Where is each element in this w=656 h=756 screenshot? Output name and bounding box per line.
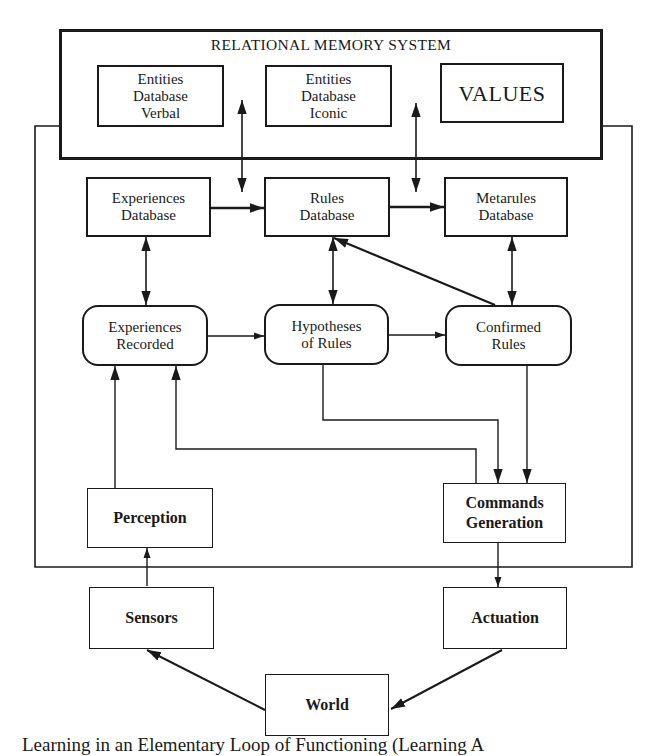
perception: Perception [87, 488, 213, 548]
entities-database-iconic: Entities Database Iconic [265, 65, 392, 127]
edge-hyp-commands [323, 364, 498, 483]
entities-database-verbal: Entities Database Verbal [97, 65, 224, 127]
edge-conf-rulesdb [334, 238, 495, 305]
edge-actuation-world [391, 650, 502, 709]
actuation-label: Actuation [471, 608, 539, 628]
metarules-database-label: Metarules Database [476, 190, 536, 224]
values-box: VALUES [440, 63, 564, 123]
hypotheses-of-rules-label: Hypotheses of Rules [292, 318, 362, 352]
edge-commands-exprec [176, 366, 476, 483]
rules-database-label: Rules Database [300, 190, 355, 224]
world: World [265, 674, 389, 736]
entities-database-iconic-label: Entities Database Iconic [301, 71, 356, 122]
values-label: VALUES [459, 85, 546, 102]
commands-generation-label: Commands Generation [465, 493, 543, 533]
hypotheses-of-rules: Hypotheses of Rules [264, 304, 389, 365]
experiences-database-label: Experiences Database [112, 190, 185, 224]
experiences-database: Experiences Database [86, 177, 211, 237]
rules-database: Rules Database [264, 177, 390, 237]
confirmed-rules: Confirmed Rules [445, 305, 572, 366]
metarules-database: Metarules Database [444, 177, 568, 237]
world-label: World [305, 695, 349, 715]
perception-label: Perception [113, 508, 186, 528]
experiences-recorded: Experiences Recorded [82, 305, 208, 366]
sensors: Sensors [89, 587, 214, 649]
confirmed-rules-label: Confirmed Rules [476, 319, 541, 353]
relational-memory-system-title: RELATIONAL MEMORY SYSTEM [59, 36, 603, 54]
entities-database-verbal-label: Entities Database Verbal [133, 71, 188, 122]
sensors-label: Sensors [125, 608, 177, 628]
commands-generation: Commands Generation [443, 483, 566, 543]
figure-caption: Learning in an Elementary Loop of Functi… [22, 734, 484, 756]
edge-world-sensors [147, 650, 265, 710]
experiences-recorded-label: Experiences Recorded [108, 319, 181, 353]
actuation: Actuation [443, 587, 567, 649]
